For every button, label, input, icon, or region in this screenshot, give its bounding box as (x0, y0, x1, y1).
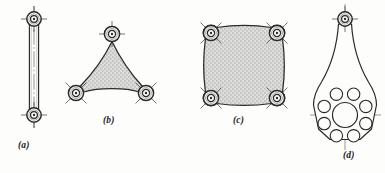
part-b-ternary-link (66, 21, 157, 104)
caption-c: (c) (233, 115, 244, 125)
part-a-joint-bottom (21, 102, 47, 128)
part-d-bolt-hole (347, 88, 359, 100)
caption-b: (b) (103, 115, 115, 125)
part-d-bolt-hole (360, 117, 372, 129)
part-d-central-bore (333, 103, 358, 128)
part-b-body (81, 42, 143, 93)
part-d-flanged-crank-link (310, 4, 381, 150)
part-b-joint-right (136, 83, 157, 104)
part-d-joint-pin (332, 6, 358, 32)
part-b-joint-left (66, 83, 87, 104)
part-d-bolt-hole (318, 117, 330, 129)
caption-d: (d) (343, 150, 355, 160)
part-a-binary-link (21, 6, 47, 128)
part-d-bolt-hole (330, 88, 342, 100)
part-b-joint-apex (99, 21, 125, 47)
part-c-joint-top-right (267, 23, 288, 44)
part-c-joint-top-left (201, 23, 222, 44)
figure-canvas (0, 0, 385, 173)
part-c-joint-bottom-right (267, 88, 288, 109)
part-d-bolt-hole (347, 130, 359, 142)
caption-a: (a) (18, 140, 30, 150)
part-d-bolt-hole (330, 130, 342, 142)
part-c-joint-bottom-left (201, 88, 222, 109)
part-c-quaternary-link (201, 23, 288, 109)
part-d-bolt-hole (360, 100, 372, 112)
part-d-bolt-hole (318, 100, 330, 112)
link-types-figure: (a) (b) (c) (d) (0, 0, 385, 173)
part-a-joint-top (21, 6, 47, 32)
